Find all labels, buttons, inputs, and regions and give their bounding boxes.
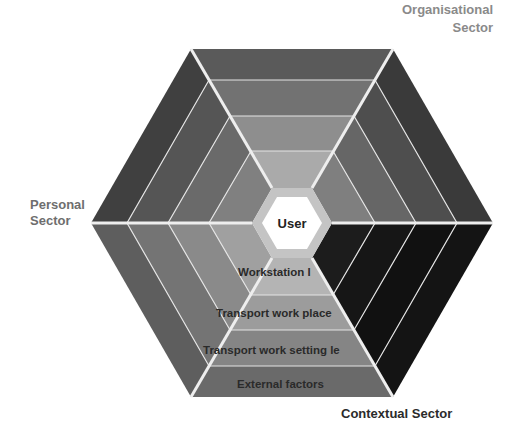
label-organisational-line1: Organisational xyxy=(402,2,493,18)
label-organisational-line2: Sector xyxy=(453,20,493,36)
band-label-transport-work-setting: Transport work setting le xyxy=(203,344,340,356)
label-personal-line1: Personal xyxy=(30,197,85,213)
user-label: User xyxy=(278,216,307,231)
label-personal-line2: Sector xyxy=(30,213,85,229)
label-personal-sector: Personal Sector xyxy=(30,197,85,229)
band-label-external-factors: External factors xyxy=(237,378,324,390)
label-contextual-line1: Contextual Sector xyxy=(341,406,452,422)
band-label-workstation: Workstation l xyxy=(238,266,311,278)
band-label-transport-work-place: Transport work place xyxy=(216,307,332,319)
label-contextual-sector: Contextual Sector xyxy=(341,406,452,422)
